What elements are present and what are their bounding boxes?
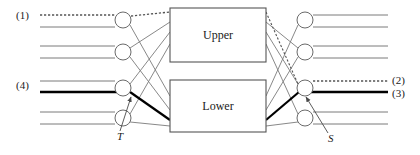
network-diagram-svg: Upper Lower [0,0,420,155]
right-node-2[interactable] [297,44,313,60]
left-trunk-lines [40,27,115,124]
diagram-canvas: Upper Lower (1) (4) (2) (3) T S [0,0,420,155]
fan-r2-lower [266,57,298,110]
fan-l4-upper [130,44,170,114]
route-l3-to-lower-thick [130,92,170,120]
left-node-2[interactable] [115,44,131,60]
annotation-label-t: T [117,130,123,142]
right-switch-nodes [297,12,313,126]
left-node-4[interactable] [115,110,131,126]
port-label-1: (1) [16,9,29,21]
fan-r4-upper [266,44,298,114]
fan-r3-upper [266,32,298,84]
right-fan-lines [266,22,298,126]
port-label-3: (3) [392,87,405,99]
left-node-1[interactable] [115,12,131,28]
route-upper-to-r3-dotted [266,12,298,84]
right-node-3[interactable] [297,80,313,96]
fan-l3-upper [130,32,170,84]
port-label-2: (2) [392,74,405,86]
right-trunk-lines [313,15,388,124]
left-switch-nodes [115,12,131,126]
port-label-4: (4) [16,79,29,91]
fan-r1-lower [266,25,298,96]
right-node-4[interactable] [297,110,313,126]
right-node-1[interactable] [297,12,313,28]
route-l1-to-upper-dotted [131,12,170,16]
annotation-label-s: S [328,132,334,144]
fan-l1-lower [130,25,170,96]
left-node-3[interactable] [115,80,131,96]
fan-l4-lower [130,122,170,126]
upper-box-label: Upper [203,28,233,42]
fan-l2-lower [130,57,170,110]
fan-r4-lower [266,122,298,126]
lower-box-label: Lower [202,99,233,113]
left-fan-lines [130,22,170,126]
